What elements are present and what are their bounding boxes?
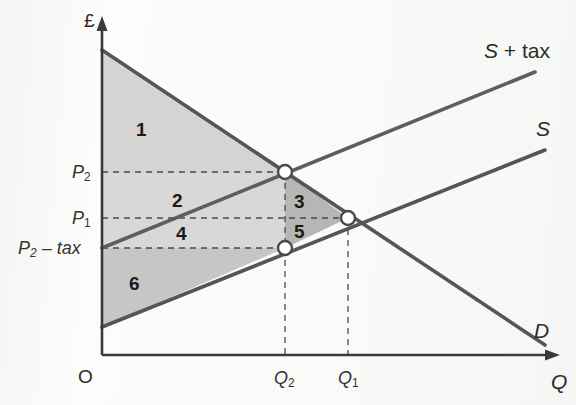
y-tick-p2-minus-tax-symbol: P: [18, 238, 30, 258]
marker-p2tax-q2: [278, 241, 292, 255]
y-tick-p2-subscript: 2: [84, 170, 91, 184]
y-tick-p2-minus-tax-suffix: – tax: [37, 238, 81, 258]
region-3-label: 3: [294, 192, 305, 211]
region-5-label: 5: [294, 222, 305, 241]
region-4-shape: [102, 218, 285, 248]
s-plus-tax-curve-label: S + tax: [484, 40, 550, 61]
region-2-label: 2: [172, 191, 183, 210]
y-axis-arrowhead: [97, 16, 108, 31]
y-tick-p1-subscript: 1: [84, 216, 91, 230]
x-tick-q2: Q2: [274, 369, 295, 390]
y-axis-unit-label: £: [84, 11, 95, 30]
y-tick-p1: P1: [72, 209, 91, 230]
region-1-label: 1: [136, 120, 147, 139]
y-tick-p1-symbol: P: [72, 208, 84, 228]
x-tick-q1-subscript: 1: [352, 376, 359, 390]
s-plus-tax-symbol: S: [484, 39, 498, 62]
s-plus-tax-suffix: + tax: [498, 39, 550, 62]
x-tick-q2-subscript: 2: [288, 376, 295, 390]
x-tick-q1: Q1: [338, 369, 359, 390]
region-6-label: 6: [129, 274, 140, 293]
demand-curve-label: D: [534, 320, 549, 341]
marker-p2-q2: [278, 165, 292, 179]
y-tick-p2-symbol: P: [72, 162, 84, 182]
x-tick-q1-symbol: Q: [338, 368, 352, 388]
x-axis-arrowhead: [545, 350, 560, 361]
y-tick-p2: P2: [72, 163, 91, 184]
y-tick-p2-minus-tax: P2 – tax: [18, 239, 81, 260]
marker-p1-q1: [341, 211, 355, 225]
figure-canvas: £ Q O S + tax S D P2 P1 P2 – tax Q2 Q1 1…: [0, 0, 576, 405]
x-tick-q2-symbol: Q: [274, 368, 288, 388]
y-tick-p2-minus-tax-subscript: 2: [30, 246, 37, 260]
origin-label: O: [78, 367, 93, 386]
x-axis-label: Q: [551, 371, 567, 392]
region-4-label: 4: [176, 224, 187, 243]
supply-curve-label: S: [536, 118, 550, 139]
